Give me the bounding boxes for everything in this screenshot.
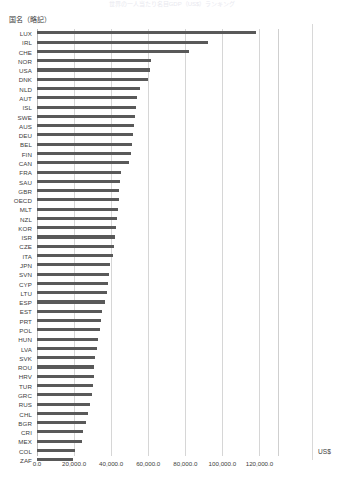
bar xyxy=(37,310,102,313)
category-label: ESP xyxy=(0,298,35,307)
bar-row xyxy=(37,113,278,122)
bar xyxy=(37,171,121,174)
bar xyxy=(37,59,151,62)
bar-row xyxy=(37,196,278,205)
category-label: CRI xyxy=(0,428,35,437)
bar-row xyxy=(37,38,278,47)
x-tick-label: 40,000.0 xyxy=(99,459,123,469)
bar-row xyxy=(37,345,278,354)
bar xyxy=(37,393,92,396)
plot-right-border xyxy=(278,29,279,456)
category-label: NLD xyxy=(0,85,35,94)
outer-right-rule xyxy=(312,24,313,460)
category-label: OECD xyxy=(0,196,35,205)
category-label: LUX xyxy=(0,29,35,38)
bar-row xyxy=(37,205,278,214)
category-label: HRV xyxy=(0,372,35,381)
category-label: LVA xyxy=(0,345,35,354)
bar-row xyxy=(37,270,278,279)
category-axis-labels: LUXIRLCHENORUSADNKNLDAUTISLSWEAUSDEUBELF… xyxy=(0,29,35,456)
bar xyxy=(37,133,133,136)
bar-row xyxy=(37,354,278,363)
x-tick-label: 0.0 xyxy=(33,459,42,469)
category-label: FRA xyxy=(0,168,35,177)
bar-row xyxy=(37,289,278,298)
bar xyxy=(37,449,75,452)
bar-row xyxy=(37,168,278,177)
bar-row xyxy=(37,280,278,289)
category-label: SAU xyxy=(0,178,35,187)
bar-row xyxy=(37,122,278,131)
bar xyxy=(37,365,94,368)
category-label: USA xyxy=(0,66,35,75)
gdp-per-capita-bar-chart: 世界の一人当たり名目GDP（US$）ランキング 国名（略記） LUXIRLCHE… xyxy=(0,0,344,486)
category-label: IRL xyxy=(0,38,35,47)
bar xyxy=(37,319,101,322)
bar xyxy=(37,300,105,303)
category-label: SVN xyxy=(0,270,35,279)
category-label: AUS xyxy=(0,122,35,131)
bar-row xyxy=(37,48,278,57)
bar xyxy=(37,356,95,359)
category-label: MEX xyxy=(0,437,35,446)
category-label: RUS xyxy=(0,400,35,409)
category-label: ITA xyxy=(0,252,35,261)
x-tick-label: 80,000.0 xyxy=(173,459,197,469)
bar-row xyxy=(37,372,278,381)
bar-row xyxy=(37,391,278,400)
bar xyxy=(37,180,120,183)
bar-row xyxy=(37,131,278,140)
bar xyxy=(37,235,115,238)
category-label: POL xyxy=(0,326,35,335)
category-label: BGR xyxy=(0,419,35,428)
category-label: DNK xyxy=(0,75,35,84)
bar-row xyxy=(37,57,278,66)
x-tick-label: 20,000.0 xyxy=(62,459,86,469)
bar xyxy=(37,263,110,266)
bar xyxy=(37,87,140,90)
bar xyxy=(37,41,208,44)
bar-row xyxy=(37,298,278,307)
bar-row xyxy=(37,224,278,233)
bar-row xyxy=(37,410,278,419)
x-tick-label: 100,000.0 xyxy=(209,459,237,469)
bar-row xyxy=(37,428,278,437)
bar-row xyxy=(37,363,278,372)
bar xyxy=(37,31,256,34)
category-label: SVK xyxy=(0,354,35,363)
bar xyxy=(37,189,119,192)
category-label: FIN xyxy=(0,150,35,159)
x-tick-label: 120,000.0 xyxy=(246,459,274,469)
x-tick-label: 60,000.0 xyxy=(136,459,160,469)
bar xyxy=(37,338,98,341)
bar-row xyxy=(37,382,278,391)
bar xyxy=(37,403,90,406)
bar-row xyxy=(37,178,278,187)
bar-row xyxy=(37,447,278,456)
bar-row xyxy=(37,252,278,261)
category-label: GRC xyxy=(0,391,35,400)
bar xyxy=(37,78,148,81)
bar-row xyxy=(37,242,278,251)
category-label: ROU xyxy=(0,363,35,372)
bar xyxy=(37,50,189,53)
category-label: KOR xyxy=(0,224,35,233)
bar xyxy=(37,115,135,118)
bar xyxy=(37,273,109,276)
bar-row xyxy=(37,29,278,38)
bar-row xyxy=(37,335,278,344)
bar-row xyxy=(37,326,278,335)
bar xyxy=(37,106,136,109)
bar xyxy=(37,328,100,331)
category-label: CAN xyxy=(0,159,35,168)
bar-row xyxy=(37,150,278,159)
bar-row xyxy=(37,140,278,149)
bar xyxy=(37,282,108,285)
bar xyxy=(37,217,117,220)
category-label: CZE xyxy=(0,242,35,251)
bar xyxy=(37,347,97,350)
category-label: EST xyxy=(0,307,35,316)
category-label: ISR xyxy=(0,233,35,242)
clipped-chart-title: 世界の一人当たり名目GDP（US$）ランキング xyxy=(0,0,344,9)
bar-row xyxy=(37,215,278,224)
